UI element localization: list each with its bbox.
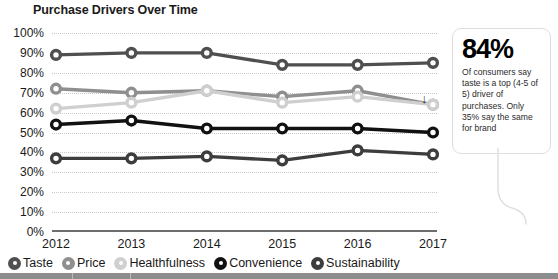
legend-item-price[interactable]: Price: [62, 256, 105, 270]
down-arrow-icon: ↓: [421, 92, 428, 105]
legend-item-convenience[interactable]: Convenience: [214, 256, 302, 270]
y-axis-tick-label: 40%: [0, 145, 44, 159]
x-axis-line: [52, 230, 437, 232]
legend-swatch-icon: [62, 257, 75, 270]
x-axis-tick-label: 2013: [117, 237, 145, 251]
y-axis-tick-label: 0%: [0, 225, 44, 239]
legend-swatch-icon: [8, 257, 21, 270]
legend-item-taste[interactable]: Taste: [8, 256, 53, 270]
x-axis-tick-label: 2017: [419, 237, 447, 251]
data-point-marker: [278, 98, 287, 107]
y-axis-tick-label: 100%: [0, 26, 44, 40]
data-point-marker: [353, 60, 362, 69]
x-axis-tick-label: 2012: [42, 237, 70, 251]
y-axis-tick-label: 80%: [0, 66, 44, 80]
data-point-marker: [127, 154, 136, 163]
callout-stat: 84%: [462, 36, 542, 64]
series-lines: [52, 33, 437, 232]
callout-body: Of consumers say taste is a top (4-5 of …: [462, 67, 542, 135]
x-axis-tick-label: 2015: [268, 237, 296, 251]
data-point-marker: [52, 84, 61, 93]
legend-swatch-icon: [114, 257, 127, 270]
data-point-marker: [52, 104, 61, 113]
data-point-marker: [278, 60, 287, 69]
data-point-marker: [429, 150, 438, 159]
y-axis-tick-label: 50%: [0, 126, 44, 140]
y-axis-tick-label: 90%: [0, 46, 44, 60]
data-point-marker: [353, 146, 362, 155]
data-point-marker: [278, 156, 287, 165]
legend-item-label: Taste: [23, 256, 53, 270]
data-point-marker: [202, 86, 211, 95]
series-sustainability: [52, 146, 438, 165]
data-point-marker: [353, 92, 362, 101]
legend-item-label: Convenience: [229, 256, 302, 270]
x-axis-tick-label: 2016: [344, 237, 372, 251]
series-convenience: [52, 116, 438, 137]
legend-swatch-icon: [214, 257, 227, 270]
x-axis-tick-label: 2014: [193, 237, 221, 251]
data-point-marker: [127, 98, 136, 107]
chart-figure: Purchase Drivers Over Time 0%10%20%30%40…: [0, 0, 558, 279]
legend-item-label: Healthfulness: [129, 256, 205, 270]
legend-item-sustainability[interactable]: Sustainability: [311, 256, 400, 270]
plot-area: [52, 33, 437, 232]
page-title: Purchase Drivers Over Time: [33, 3, 198, 17]
data-point-marker: [52, 154, 61, 163]
y-axis-tick-label: 30%: [0, 165, 44, 179]
data-point-marker: [127, 49, 136, 58]
data-point-marker: [52, 50, 61, 59]
y-axis-tick-label: 60%: [0, 106, 44, 120]
data-point-marker: [202, 49, 211, 58]
y-axis-tick-label: 20%: [0, 185, 44, 199]
series-taste: [52, 49, 438, 70]
data-point-marker: [278, 124, 287, 133]
callout-tail-icon: [496, 148, 536, 226]
y-axis-tick-label: 10%: [0, 205, 44, 219]
data-point-marker: [202, 124, 211, 133]
legend-item-label: Sustainability: [326, 256, 400, 270]
legend: TastePriceHealthfulnessConvenienceSustai…: [8, 256, 400, 270]
legend-item-healthfulness[interactable]: Healthfulness: [114, 256, 205, 270]
callout-box: 84% Of consumers say taste is a top (4-5…: [452, 28, 551, 154]
data-point-marker: [429, 128, 438, 137]
legend-swatch-icon: [311, 257, 324, 270]
data-point-marker: [127, 116, 136, 125]
y-axis-tick-label: 70%: [0, 86, 44, 100]
data-point-marker: [429, 58, 438, 67]
data-point-marker: [429, 100, 438, 109]
bottom-bar: [0, 273, 558, 279]
data-point-marker: [52, 120, 61, 129]
legend-item-label: Price: [77, 256, 105, 270]
data-point-marker: [202, 152, 211, 161]
data-point-marker: [353, 124, 362, 133]
data-point-marker: [127, 88, 136, 97]
